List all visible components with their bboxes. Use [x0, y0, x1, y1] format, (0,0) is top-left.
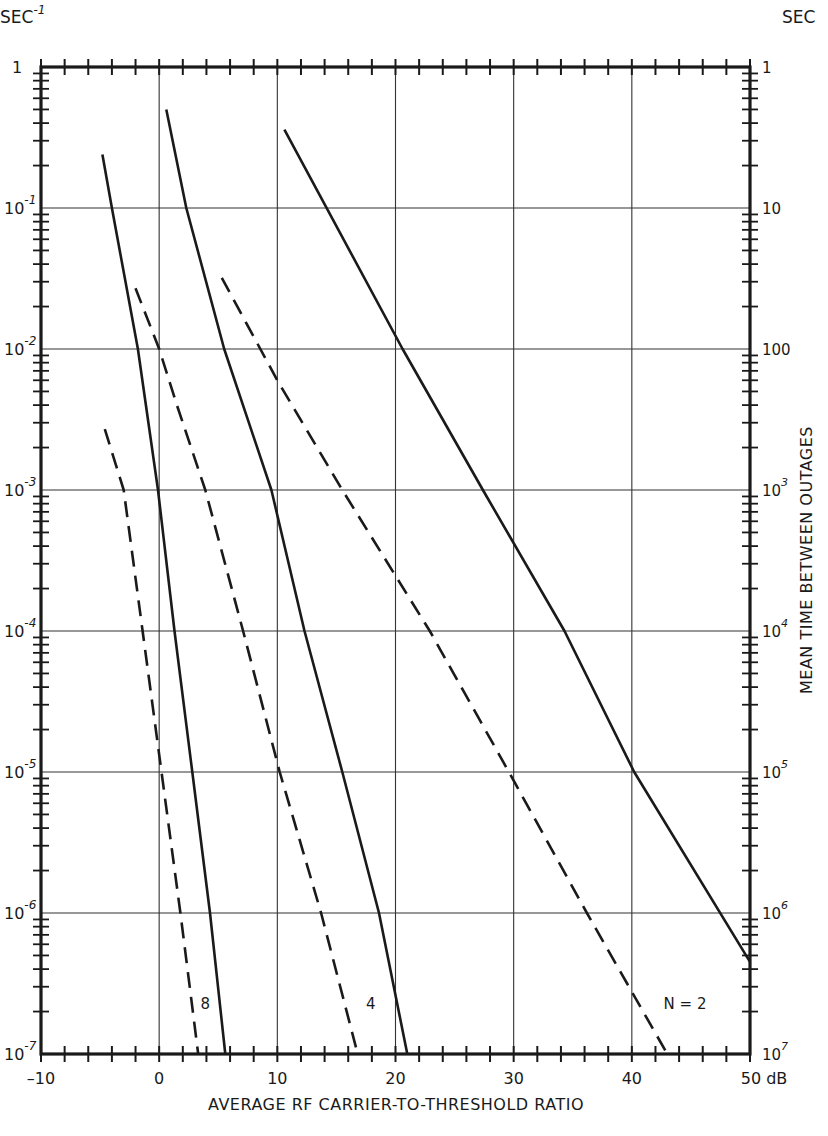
outage-rate-chart: –1001020304050 dB110-110-210-310-410-510… [0, 0, 828, 1136]
x-tick-label: 0 [154, 1069, 164, 1088]
y-right-tick-label: 104 [762, 617, 788, 641]
dashed-curve [136, 288, 358, 1054]
dashed-curve [222, 278, 668, 1054]
x-tick-label: 50 dB [741, 1069, 788, 1088]
y-right-tick-label: 107 [762, 1040, 788, 1064]
curve-labels: 84N = 2 [200, 995, 706, 1013]
y-left-tick-label: 10-5 [4, 757, 36, 782]
left-axis-unit: SEC-1 [0, 3, 45, 27]
data-series [102, 109, 750, 1054]
solid-curve [166, 109, 407, 1054]
y-left-tick-label: 10-7 [4, 1039, 37, 1064]
y-left-tick-label: 10-2 [4, 334, 36, 359]
y-right-tick-label: 105 [762, 758, 788, 782]
curve-label: 8 [200, 995, 210, 1013]
curve-label: 4 [366, 995, 376, 1013]
dashed-curve [105, 429, 198, 1054]
curve-label: N = 2 [664, 995, 707, 1013]
right-axis-unit: SEC [782, 7, 815, 27]
x-axis-title: AVERAGE RF CARRIER-TO-THRESHOLD RATIO [208, 1095, 584, 1114]
x-tick-label: 30 [503, 1069, 523, 1088]
x-tick-label: –10 [27, 1069, 55, 1088]
y-right-tick-label: 10 [762, 200, 781, 218]
y-left-tick-label: 10-3 [4, 475, 36, 500]
y-right-tick-label: 103 [762, 476, 788, 500]
y-left-tick-label: 10-6 [4, 898, 37, 923]
x-tick-label: 10 [267, 1069, 287, 1088]
x-tick-label: 20 [385, 1069, 405, 1088]
grid-lines [41, 67, 750, 1054]
y-right-tick-label: 100 [762, 341, 791, 359]
y-left-tick-label: 10-1 [4, 193, 36, 218]
tick-labels: –1001020304050 dB110-110-210-310-410-510… [4, 58, 791, 1088]
y-left-tick-label: 1 [12, 58, 22, 77]
solid-curve [284, 130, 750, 962]
y-right-tick-label: 106 [762, 899, 788, 923]
right-axis-title: MEAN TIME BETWEEN OUTAGES [797, 426, 816, 694]
y-right-tick-label: 1 [762, 59, 772, 77]
x-tick-label: 40 [622, 1069, 642, 1088]
y-left-tick-label: 10-4 [4, 616, 36, 641]
